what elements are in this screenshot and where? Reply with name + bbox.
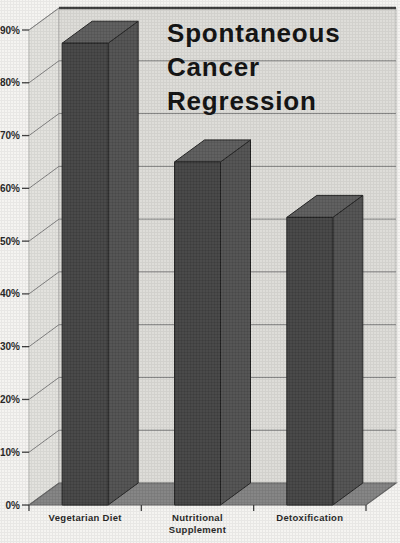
- bar-front-nutritional-supplement: [175, 162, 221, 505]
- plot-side-wall: [29, 8, 59, 505]
- y-axis-label: 30%: [0, 341, 20, 352]
- y-axis-label: 80%: [0, 77, 20, 88]
- chart-title-line-2: Cancer: [167, 50, 340, 84]
- y-axis-label: 20%: [0, 394, 20, 405]
- x-axis-label: Nutritional: [172, 512, 223, 523]
- y-axis-label: 50%: [0, 236, 20, 247]
- chart-title: Spontaneous Cancer Regression: [167, 16, 340, 118]
- bar-side-vegetarian-diet: [108, 21, 138, 505]
- y-axis-label: 60%: [0, 183, 20, 194]
- x-axis-label: Supplement: [169, 524, 227, 535]
- bar-side-detoxification: [333, 195, 363, 505]
- bar-side-nutritional-supplement: [221, 140, 251, 505]
- y-axis-label: 70%: [0, 130, 20, 141]
- y-axis-label: 0%: [6, 500, 21, 511]
- x-axis-label: Detoxification: [276, 512, 343, 523]
- bar-front-vegetarian-diet: [62, 43, 108, 505]
- bar-front-detoxification: [287, 217, 333, 505]
- y-axis-label: 10%: [0, 447, 20, 458]
- chart-title-line-3: Regression: [167, 84, 340, 118]
- y-axis-label: 90%: [0, 25, 20, 36]
- x-axis-label: Vegetarian Diet: [49, 512, 123, 523]
- y-axis-label: 40%: [0, 288, 20, 299]
- chart-title-line-1: Spontaneous: [167, 16, 340, 50]
- chart-page: 0%10%20%30%40%50%60%70%80%90%Vegetarian …: [0, 0, 400, 543]
